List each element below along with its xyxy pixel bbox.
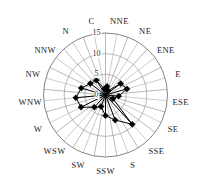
direction-label-E: E: [175, 70, 181, 79]
direction-label-ENE: ENE: [157, 45, 175, 54]
direction-label-SW: SW: [71, 161, 85, 170]
radial-tick-15: 15: [92, 29, 101, 37]
radial-tick-5: 5: [94, 70, 99, 78]
data-point-S: [112, 117, 118, 123]
data-point-W: [78, 104, 84, 110]
direction-label-WNW: WNW: [19, 98, 42, 107]
polar-plot-area: [0, 0, 205, 179]
data-point-SSW: [102, 113, 108, 119]
direction-label-NE: NE: [139, 27, 151, 36]
wind-rose-chart: NNENEENEEESESESSESSSWSWWSWWWNWNWNNWNC 05…: [0, 0, 205, 179]
direction-label-SSE: SSE: [148, 147, 164, 156]
direction-label-NW: NW: [25, 70, 40, 79]
radial-tick-0: 0: [94, 91, 99, 99]
direction-label-NNW: NNW: [34, 45, 56, 54]
direction-label-ESE: ESE: [173, 98, 189, 107]
data-point-WNW: [73, 95, 79, 101]
radial-tick-10: 10: [92, 50, 101, 58]
direction-label-S: S: [130, 161, 135, 170]
direction-label-C: C: [89, 17, 95, 26]
direction-label-SSW: SSW: [96, 166, 115, 175]
data-point-NW: [78, 85, 84, 91]
direction-label-NNE: NNE: [110, 17, 129, 26]
direction-label-WSW: WSW: [44, 147, 66, 156]
direction-label-SE: SE: [168, 124, 179, 133]
direction-label-W: W: [34, 124, 42, 133]
direction-label-N: N: [63, 27, 70, 36]
